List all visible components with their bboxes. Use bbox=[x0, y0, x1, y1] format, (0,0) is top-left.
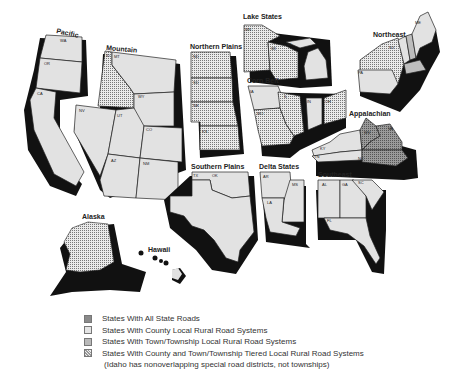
svg-text:Hawaii: Hawaii bbox=[148, 246, 170, 253]
region-northern-plains: Northern Plains ND SD NE KS bbox=[190, 43, 244, 158]
svg-text:Delta States: Delta States bbox=[259, 163, 299, 170]
legend-item-tiered: States With County and Town/Township Tie… bbox=[84, 348, 364, 360]
svg-text:PA: PA bbox=[358, 70, 363, 75]
svg-text:Alaska: Alaska bbox=[82, 213, 105, 220]
region-southeast: Southeast AL GA SC FL bbox=[316, 171, 386, 274]
svg-text:GA: GA bbox=[342, 182, 348, 187]
legend-label: States With Town/Township Local Rural Ro… bbox=[102, 336, 296, 348]
svg-text:Southern Plains: Southern Plains bbox=[191, 163, 244, 170]
svg-text:MI: MI bbox=[287, 42, 291, 47]
svg-text:TN: TN bbox=[314, 154, 319, 159]
svg-text:MT: MT bbox=[114, 54, 120, 59]
region-mountain: Mountain ID MT WY NV UT CO AZ NM bbox=[74, 44, 186, 200]
svg-text:Lake States: Lake States bbox=[243, 13, 282, 20]
region-alaska: Alaska bbox=[50, 213, 146, 296]
region-northeast: Northeast ME NY PA bbox=[358, 12, 440, 112]
svg-text:FL: FL bbox=[327, 218, 332, 223]
svg-text:WV: WV bbox=[364, 130, 371, 135]
svg-text:OR: OR bbox=[44, 61, 50, 66]
svg-text:NV: NV bbox=[79, 108, 85, 113]
svg-text:CA: CA bbox=[37, 91, 43, 96]
svg-text:KS: KS bbox=[202, 129, 208, 134]
legend-note: (Idaho has nonoverlapping special road d… bbox=[84, 359, 364, 371]
svg-text:NM: NM bbox=[143, 161, 149, 166]
svg-text:SD: SD bbox=[193, 80, 199, 85]
swatch-all-state-roads bbox=[84, 315, 92, 323]
svg-text:ND: ND bbox=[193, 54, 199, 59]
svg-text:WY: WY bbox=[138, 94, 145, 99]
svg-text:TX: TX bbox=[193, 173, 198, 178]
svg-text:NE: NE bbox=[193, 103, 199, 108]
swatch-tiered bbox=[84, 349, 92, 357]
us-rural-road-systems-map: Pacific WA OR CA Mountain ID MT WY NV UT… bbox=[0, 0, 455, 310]
svg-text:Northeast: Northeast bbox=[373, 31, 406, 38]
legend: States With All State Roads States With … bbox=[84, 313, 364, 371]
svg-text:OH: OH bbox=[325, 99, 331, 104]
svg-text:MS: MS bbox=[292, 182, 298, 187]
svg-text:AL: AL bbox=[322, 182, 328, 187]
region-delta-states: Delta States AR MS LA bbox=[259, 163, 310, 248]
svg-text:UT: UT bbox=[117, 113, 123, 118]
legend-label: States With County Local Rural Road Syst… bbox=[102, 325, 267, 337]
swatch-county bbox=[84, 326, 92, 334]
svg-text:OK: OK bbox=[212, 173, 218, 178]
legend-item-all-state: States With All State Roads bbox=[84, 313, 364, 325]
svg-text:IA: IA bbox=[250, 89, 254, 94]
region-hawaii: Hawaii bbox=[139, 246, 187, 284]
svg-text:CO: CO bbox=[146, 127, 152, 132]
svg-text:WI: WI bbox=[271, 46, 276, 51]
svg-text:Appalachian: Appalachian bbox=[349, 110, 391, 118]
svg-text:ID: ID bbox=[106, 53, 110, 58]
svg-text:VA: VA bbox=[388, 126, 393, 131]
svg-text:NY: NY bbox=[389, 45, 395, 50]
svg-text:KY: KY bbox=[320, 146, 326, 151]
svg-text:IN: IN bbox=[307, 99, 311, 104]
legend-label: States With All State Roads bbox=[102, 313, 200, 325]
legend-item-county: States With County Local Rural Road Syst… bbox=[84, 325, 364, 337]
svg-text:MO: MO bbox=[257, 111, 263, 116]
svg-text:SC: SC bbox=[358, 180, 364, 185]
svg-text:WA: WA bbox=[60, 38, 67, 43]
legend-item-town: States With Town/Township Local Rural Ro… bbox=[84, 336, 364, 348]
swatch-town-township bbox=[84, 338, 92, 346]
legend-label: States With County and Town/Township Tie… bbox=[102, 348, 364, 360]
svg-text:Southeast: Southeast bbox=[318, 171, 353, 178]
svg-text:AR: AR bbox=[263, 174, 269, 179]
svg-text:LA: LA bbox=[267, 200, 272, 205]
svg-text:AZ: AZ bbox=[111, 158, 117, 163]
svg-text:Corn Belt: Corn Belt bbox=[247, 77, 279, 84]
svg-text:MN: MN bbox=[245, 27, 251, 32]
svg-text:Northern Plains: Northern Plains bbox=[190, 43, 242, 50]
svg-text:ME: ME bbox=[415, 20, 421, 25]
svg-text:NC: NC bbox=[358, 156, 364, 161]
